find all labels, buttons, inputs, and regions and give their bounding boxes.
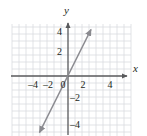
- x-tick-label-0: 0: [61, 79, 66, 90]
- x-tick-label-2: 2: [81, 79, 86, 90]
- x-tick-label-neg2: –2: [42, 79, 53, 90]
- coordinate-plane-figure: x y –4 –2 0 2 4 4 2 –2 –4: [0, 0, 147, 136]
- y-tick-label-2: 2: [57, 46, 62, 57]
- y-tick-label-neg2: –2: [69, 92, 80, 103]
- plot-background: [0, 0, 147, 136]
- graph-canvas: x y –4 –2 0 2 4 4 2 –2 –4: [0, 0, 147, 136]
- y-axis-label: y: [63, 4, 69, 16]
- x-tick-label-4: 4: [108, 79, 113, 90]
- x-tick-label-neg4: –4: [27, 79, 38, 90]
- y-tick-label-neg4: –4: [69, 119, 80, 130]
- x-axis-label: x: [132, 62, 138, 74]
- y-tick-label-4: 4: [57, 26, 62, 37]
